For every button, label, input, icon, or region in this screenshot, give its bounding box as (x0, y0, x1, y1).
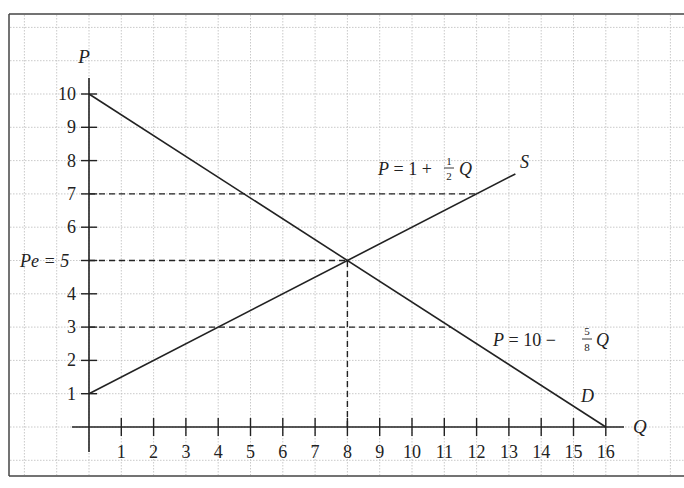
x-tick-label: 13 (500, 442, 518, 462)
x-axis-title: Q (633, 416, 647, 437)
x-tick-label: 4 (214, 442, 223, 462)
y-axis-title: P (77, 46, 90, 67)
x-tick-label: 3 (181, 442, 190, 462)
x-tick-label: 15 (565, 442, 583, 462)
svg-text:P = 10 −: P = 10 − (492, 330, 556, 350)
y-tick-label: 7 (67, 184, 76, 204)
supply-eq-denominator: 2 (446, 170, 452, 182)
x-tick-label: 1 (117, 442, 126, 462)
y-tick-label: 6 (67, 217, 76, 237)
demand-eq-numerator: 5 (584, 325, 590, 337)
y-tick-label: 9 (67, 117, 76, 137)
chart-frame (9, 14, 684, 476)
x-tick-label: 6 (278, 442, 287, 462)
demand-label: D (580, 386, 594, 406)
x-tick-label: 16 (597, 442, 615, 462)
x-tick-label: 14 (532, 442, 550, 462)
x-tick-label: 8 (343, 442, 352, 462)
y-tick-label: 2 (67, 350, 76, 370)
x-tick-label: 9 (375, 442, 384, 462)
axis-ticks (81, 94, 606, 436)
pe-text: Pe = 5 (19, 251, 69, 271)
y-tick-label: 8 (67, 151, 76, 171)
x-tick-label: 7 (311, 442, 320, 462)
supply-eq-var: Q (459, 159, 472, 179)
y-tick-label: 10 (58, 84, 76, 104)
equilibrium-price-label: Pe = 5 (19, 251, 69, 271)
y-tick-label: 1 (67, 384, 76, 404)
demand-equation: P = 10 − 5 8 Q (492, 325, 609, 353)
supply-equation: P = 1 + 1 2 Q (377, 155, 472, 182)
svg-text:P = 1 +: P = 1 + (377, 159, 432, 179)
y-tick-label: 4 (67, 284, 76, 304)
x-tick-label: 2 (149, 442, 158, 462)
x-tick-label: 11 (436, 442, 453, 462)
demand-eq-var: Q (596, 330, 609, 350)
supply-label: S (520, 152, 529, 172)
x-tick-label: 5 (246, 442, 255, 462)
x-tick-label: 10 (403, 442, 421, 462)
x-tick-label: 12 (468, 442, 486, 462)
supply-eq-numerator: 1 (446, 155, 452, 167)
supply-demand-chart: 123467891012345678910111213141516 P Q Pe… (0, 0, 684, 488)
y-tick-label: 3 (67, 317, 76, 337)
tick-labels: 123467891012345678910111213141516 (58, 84, 615, 462)
demand-eq-denominator: 8 (584, 341, 590, 353)
